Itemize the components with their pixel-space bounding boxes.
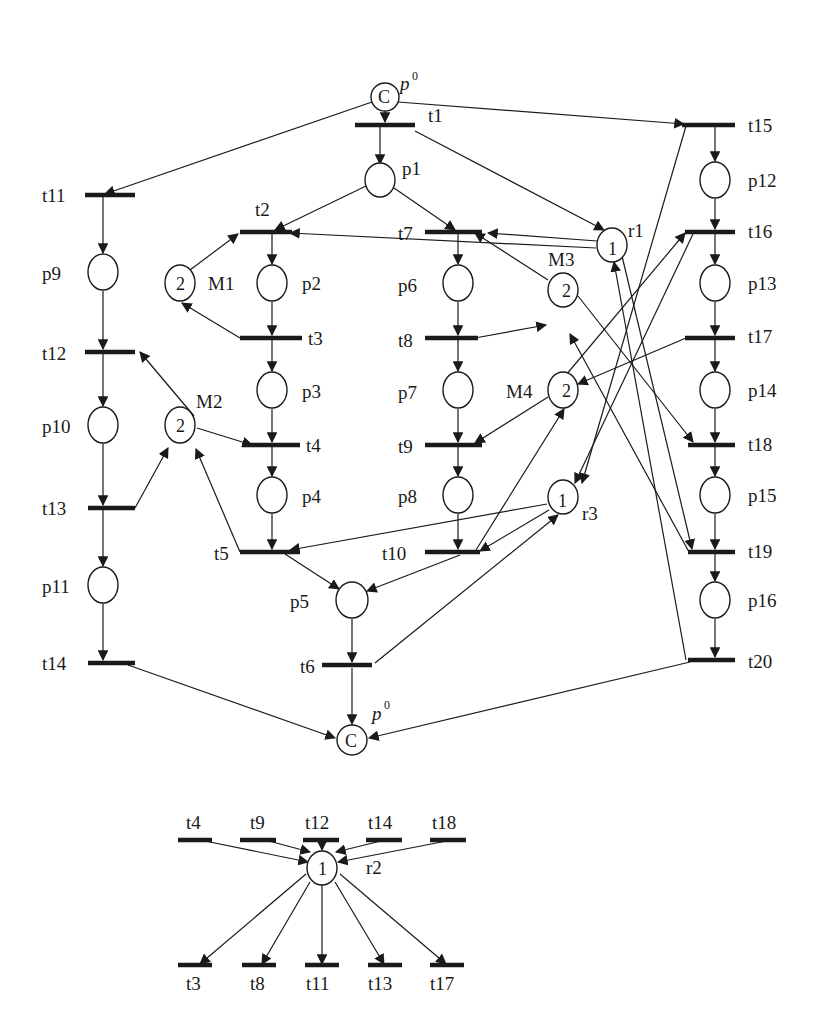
svg-text:p4: p4	[302, 486, 322, 507]
place-p7	[443, 372, 473, 408]
svg-text:t7: t7	[398, 223, 413, 244]
place-p1	[365, 163, 395, 197]
labels: p 0 p 0 t1 p1 t2 M1 p2 t3 p3 t4 p4 t5 M2…	[42, 69, 777, 994]
svg-text:p: p	[370, 703, 382, 724]
svg-text:p15: p15	[748, 485, 777, 506]
place-p14	[700, 372, 730, 408]
svg-text:t2: t2	[255, 199, 270, 220]
svg-text:p10: p10	[42, 416, 71, 437]
svg-text:t3: t3	[186, 973, 201, 994]
svg-text:t1: t1	[428, 105, 443, 126]
svg-text:p12: p12	[748, 170, 777, 191]
svg-text:r3: r3	[582, 503, 598, 524]
place-p12	[700, 162, 730, 198]
places	[88, 83, 730, 885]
svg-text:2: 2	[176, 416, 185, 436]
svg-text:p13: p13	[748, 273, 777, 294]
svg-text:p3: p3	[302, 381, 321, 402]
svg-text:M4: M4	[506, 381, 533, 402]
svg-text:p2: p2	[302, 273, 321, 294]
svg-text:p6: p6	[398, 275, 417, 296]
svg-text:p8: p8	[398, 486, 417, 507]
svg-text:r2: r2	[366, 857, 382, 878]
svg-text:t11: t11	[42, 185, 66, 206]
svg-text:t17: t17	[430, 973, 454, 994]
svg-text:p7: p7	[398, 382, 417, 403]
svg-text:t9: t9	[250, 812, 265, 833]
svg-text:p1: p1	[402, 158, 421, 179]
place-p2	[257, 265, 287, 301]
svg-text:p14: p14	[748, 380, 777, 401]
svg-text:t4: t4	[186, 812, 201, 833]
svg-text:t14: t14	[368, 812, 393, 833]
svg-text:t20: t20	[748, 651, 772, 672]
svg-text:t18: t18	[432, 812, 456, 833]
svg-text:t6: t6	[300, 656, 315, 677]
place-p15	[700, 477, 730, 513]
svg-text:t5: t5	[214, 543, 229, 564]
place-p6	[443, 265, 473, 301]
svg-text:0: 0	[384, 698, 390, 712]
place-p3	[257, 372, 287, 408]
svg-text:M3: M3	[548, 249, 574, 270]
petri-net-diagram: C C 2 2 2 2 1 1 1 p 0 p 0 t1 p1 t2 M1 p2…	[0, 0, 820, 1028]
svg-text:p16: p16	[748, 590, 777, 611]
svg-text:t15: t15	[748, 115, 772, 136]
svg-text:t16: t16	[748, 221, 772, 242]
place-p8	[443, 477, 473, 513]
svg-text:C: C	[378, 87, 390, 107]
svg-text:t19: t19	[748, 541, 772, 562]
svg-text:1: 1	[608, 239, 617, 259]
place-p13	[700, 265, 730, 301]
svg-text:t11: t11	[306, 973, 330, 994]
svg-text:t10: t10	[382, 543, 406, 564]
svg-text:t9: t9	[398, 436, 413, 457]
place-p9	[88, 254, 118, 290]
svg-text:t12: t12	[305, 812, 329, 833]
place-p16	[700, 582, 730, 618]
tokens: C C 2 2 2 2 1 1 1	[176, 87, 617, 879]
svg-text:t12: t12	[42, 343, 66, 364]
svg-text:t13: t13	[42, 498, 66, 519]
svg-text:1: 1	[558, 491, 567, 511]
place-p10	[88, 407, 118, 443]
svg-text:t3: t3	[308, 328, 323, 349]
svg-text:t17: t17	[748, 326, 772, 347]
svg-text:M2: M2	[196, 391, 222, 412]
svg-text:p11: p11	[42, 576, 70, 597]
svg-text:t4: t4	[306, 435, 321, 456]
svg-text:0: 0	[412, 69, 418, 83]
svg-text:t18: t18	[748, 434, 772, 455]
svg-text:p5: p5	[290, 591, 309, 612]
svg-text:2: 2	[562, 281, 571, 301]
svg-text:2: 2	[562, 381, 571, 401]
svg-text:p9: p9	[42, 263, 61, 284]
svg-text:2: 2	[176, 274, 185, 294]
svg-text:t8: t8	[250, 973, 265, 994]
transitions	[85, 125, 735, 965]
svg-text:p: p	[398, 73, 410, 94]
place-p4	[257, 477, 287, 513]
place-p5	[336, 582, 368, 618]
svg-text:t14: t14	[42, 653, 67, 674]
svg-text:r1: r1	[628, 220, 644, 241]
svg-text:t8: t8	[398, 330, 413, 351]
svg-text:M1: M1	[208, 273, 234, 294]
svg-text:C: C	[345, 731, 357, 751]
svg-text:1: 1	[318, 859, 327, 879]
svg-text:t13: t13	[368, 973, 392, 994]
place-p11	[88, 567, 118, 603]
